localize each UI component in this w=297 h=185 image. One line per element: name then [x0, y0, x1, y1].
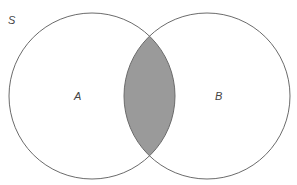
universe-label: S — [8, 14, 16, 26]
set-a-label: A — [73, 90, 81, 102]
venn-diagram: S A B — [0, 0, 297, 185]
intersection-region — [124, 13, 290, 179]
set-b-label: B — [215, 90, 222, 102]
